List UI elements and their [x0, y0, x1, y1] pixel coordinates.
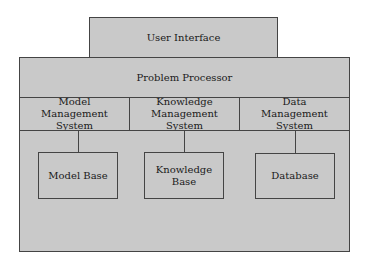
user-interface-label: User Interface [147, 32, 221, 44]
connector [295, 131, 296, 153]
database-label: Database [271, 170, 318, 182]
knowledge-base-label: Knowledge Base [156, 164, 212, 188]
connector [184, 131, 185, 152]
model-base-box: Model Base [38, 152, 118, 199]
knowledge-management-system: Knowledge Management System [130, 98, 239, 130]
connector [78, 131, 79, 152]
database-box: Database [255, 153, 335, 199]
problem-processor-label: Problem Processor [20, 58, 349, 97]
model-management-system: Model Management System [20, 98, 129, 130]
knowledge-base-box: Knowledge Base [144, 152, 224, 199]
user-interface-box: User Interface [89, 17, 278, 58]
problem-processor-container: Problem Processor Model Management Syste… [19, 57, 350, 252]
data-management-system: Data Management System [240, 98, 349, 130]
model-base-label: Model Base [48, 170, 107, 182]
